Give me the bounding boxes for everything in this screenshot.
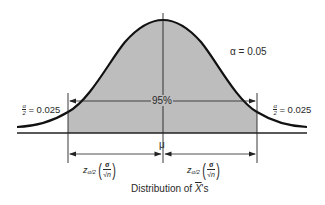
arrowhead-icon	[69, 152, 76, 157]
arrowhead-icon	[249, 152, 256, 157]
confidence-percent-label: 95%	[151, 95, 173, 106]
left-tail-value: = 0.025	[28, 104, 60, 115]
left-tail-label: α 2 = 0.025	[22, 103, 60, 116]
arrowhead-icon	[165, 152, 172, 157]
arrowhead-right-icon	[249, 99, 256, 104]
diagram-caption: Distribution of X's	[131, 183, 209, 194]
sigma-over-root-n: σ √n	[207, 160, 215, 179]
alpha-half-fraction: α 2	[273, 103, 277, 116]
alpha-half-fraction: α 2	[22, 103, 26, 116]
left-margin-of-error-label: z α/2 ( σ √n )	[83, 160, 117, 179]
right-tail-value: = 0.025	[279, 104, 311, 115]
arrowhead-icon	[155, 152, 162, 157]
sigma-over-root-n: σ √n	[103, 160, 111, 179]
mean-label: μ	[159, 139, 165, 150]
right-tail-label: α 2 = 0.025	[273, 103, 311, 116]
arrowhead-left-icon	[69, 99, 76, 104]
shaded-confidence-region	[68, 20, 257, 133]
alpha-label: α = 0.05	[230, 46, 267, 57]
right-margin-of-error-label: z α/2 ( σ √n )	[187, 160, 221, 179]
